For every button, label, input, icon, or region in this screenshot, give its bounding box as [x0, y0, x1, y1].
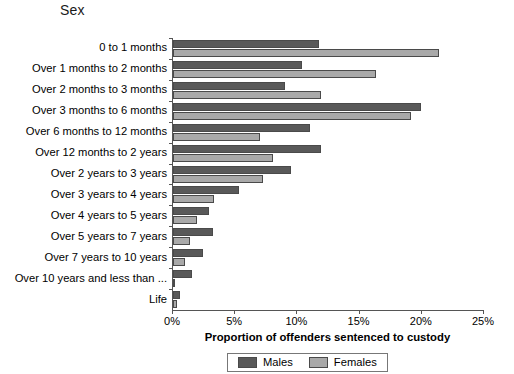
category-axis-tick [169, 184, 173, 185]
category-label: Over 5 years to 7 years [51, 231, 167, 242]
category-axis-tick [169, 38, 173, 39]
category-axis-tick [169, 101, 173, 102]
bar-females [173, 133, 260, 141]
category-axis-tick [169, 289, 173, 290]
bar-females [173, 70, 376, 78]
bar-females [173, 279, 175, 287]
category-axis-tick [169, 80, 173, 81]
category-axis-tick [169, 268, 173, 269]
category-label: Over 12 months to 2 years [35, 147, 167, 158]
bar-females [173, 216, 197, 224]
bar-group: Over 3 months to 6 months [173, 101, 484, 122]
bar-females [173, 258, 185, 266]
bar-group: Over 6 months to 12 months [173, 122, 484, 143]
category-axis-tick [169, 205, 173, 206]
bar-males [173, 228, 213, 236]
x-axis-tick-label: 25% [472, 315, 494, 327]
category-axis-tick [169, 122, 173, 123]
bar-group: Over 1 months to 2 months [173, 59, 484, 80]
category-label: Over 10 years and less than ... [15, 273, 167, 284]
x-axis-tick [483, 310, 484, 314]
bar-group: Over 3 years to 4 years [173, 184, 484, 205]
bar-group: 0 to 1 months [173, 38, 484, 59]
category-axis-tick [169, 247, 173, 248]
bar-group: Over 10 years and less than ... [173, 268, 484, 289]
bar-group: Life [173, 289, 484, 310]
category-label: Over 7 years to 10 years [45, 252, 168, 263]
bar-group: Over 5 years to 7 years [173, 226, 484, 247]
legend-item-males[interactable]: Males [238, 356, 293, 368]
bar-females [173, 175, 263, 183]
bar-males [173, 61, 302, 69]
x-axis-title: Proportion of offenders sentenced to cus… [172, 331, 483, 343]
bar-males [173, 82, 285, 90]
bar-females [173, 237, 190, 245]
x-axis-tick-label: 0% [164, 315, 180, 327]
bar-males [173, 291, 180, 299]
x-axis-line [172, 310, 483, 311]
legend-swatch-females-icon [309, 357, 328, 368]
bar-males [173, 40, 319, 48]
bar-males [173, 124, 310, 132]
chart-legend: Males Females [227, 353, 388, 372]
category-label: Over 4 years to 5 years [51, 210, 167, 221]
bar-group: Over 2 years to 3 years [173, 164, 484, 185]
category-label: Over 2 months to 3 months [32, 85, 167, 96]
category-label: Over 3 years to 4 years [51, 189, 167, 200]
bar-females [173, 300, 177, 308]
bar-group: Over 12 months to 2 years [173, 143, 484, 164]
bar-males [173, 249, 203, 257]
bar-males [173, 270, 192, 278]
bar-females [173, 91, 321, 99]
bar-males [173, 166, 291, 174]
bar-group: Over 2 months to 3 months [173, 80, 484, 101]
category-label: Life [149, 294, 167, 305]
category-label: Over 2 years to 3 years [51, 168, 167, 179]
category-axis-tick [169, 226, 173, 227]
legend-swatch-males-icon [238, 357, 257, 368]
x-axis-tick-label: 20% [410, 315, 432, 327]
category-label: Over 6 months to 12 months [26, 127, 167, 138]
bar-males [173, 145, 321, 153]
bar-chart: Sex 0 to 1 monthsOver 1 months to 2 mont… [0, 0, 514, 374]
bar-females [173, 195, 214, 203]
bar-males [173, 103, 421, 111]
bar-females [173, 49, 439, 57]
bar-males [173, 207, 209, 215]
x-axis-tick-label: 10% [285, 315, 307, 327]
bar-females [173, 154, 273, 162]
bar-females [173, 112, 411, 120]
x-axis-tick-label: 5% [226, 315, 242, 327]
plot-area: 0 to 1 monthsOver 1 months to 2 monthsOv… [172, 38, 484, 310]
x-axis-tick [296, 310, 297, 314]
legend-item-females[interactable]: Females [309, 356, 377, 368]
category-label: 0 to 1 months [99, 43, 167, 54]
category-label: Over 1 months to 2 months [32, 64, 167, 75]
category-axis-tick [169, 164, 173, 165]
x-axis-tick [359, 310, 360, 314]
legend-label-males: Males [263, 356, 293, 368]
x-axis-tick [421, 310, 422, 314]
x-axis-tick [172, 310, 173, 314]
legend-label-females: Females [334, 356, 377, 368]
x-axis-tick-label: 15% [348, 315, 370, 327]
bar-males [173, 186, 239, 194]
category-axis-tick [169, 59, 173, 60]
bar-group: Over 4 years to 5 years [173, 205, 484, 226]
chart-title: Sex [60, 2, 85, 18]
category-axis-tick [169, 143, 173, 144]
bar-group: Over 7 years to 10 years [173, 247, 484, 268]
category-label: Over 3 months to 6 months [32, 106, 167, 117]
x-axis-tick [234, 310, 235, 314]
